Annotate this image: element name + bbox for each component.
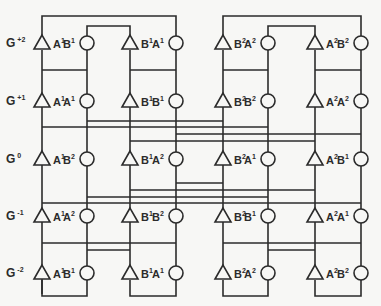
kin-label: B2 (63, 153, 75, 166)
kinship-diagram: G+2A1B1B1A1B2A2A2B2G+1A1A1B1B1B2B2A2A2G0… (0, 0, 381, 306)
male-triangle-icon (307, 151, 323, 165)
female-circle-icon (169, 94, 183, 108)
female-circle-icon (354, 94, 368, 108)
kin-label: A1 (244, 153, 256, 166)
female-circle-icon (169, 209, 183, 223)
generation-superscript: +2 (17, 36, 25, 43)
female-circle-icon (261, 94, 275, 108)
kin-label-superscript: 2 (71, 153, 75, 160)
kin-label-superscript: 1 (160, 267, 164, 274)
male-triangle-icon (307, 265, 323, 279)
generation-label: G-2 (6, 266, 24, 280)
kin-label-superscript: 1 (160, 95, 164, 102)
male-triangle-icon (307, 35, 323, 49)
kin-label: B1 (63, 37, 75, 50)
male-triangle-icon (34, 35, 50, 49)
female-circle-icon (80, 36, 94, 50)
kin-label-superscript: 1 (160, 37, 164, 44)
generation-label: G+1 (6, 94, 25, 108)
kin-label-superscript: 2 (252, 37, 256, 44)
kin-label: A2 (63, 210, 75, 223)
female-circle-icon (261, 266, 275, 280)
female-circle-icon (354, 36, 368, 50)
female-circle-icon (261, 209, 275, 223)
kin-label: B1 (63, 267, 75, 280)
kin-label: A1 (152, 37, 164, 50)
kin-label: A1 (63, 95, 75, 108)
generation-superscript: -2 (17, 266, 23, 273)
kin-label: A1 (337, 210, 349, 223)
female-circle-icon (169, 266, 183, 280)
generation-label: G-1 (6, 209, 24, 223)
male-triangle-icon (122, 35, 138, 49)
kin-label: A2 (244, 37, 256, 50)
kin-label: A2 (244, 267, 256, 280)
kin-label: B2 (244, 95, 256, 108)
generation-superscript: -1 (17, 209, 23, 216)
male-triangle-icon (215, 265, 231, 279)
kin-label: B2 (152, 210, 164, 223)
male-triangle-icon (215, 93, 231, 107)
male-triangle-icon (307, 93, 323, 107)
kin-label-superscript: 2 (345, 267, 349, 274)
kin-label: B2 (337, 267, 349, 280)
kin-label-superscript: 2 (345, 37, 349, 44)
kin-label: A2 (152, 153, 164, 166)
kin-label-superscript: 1 (252, 210, 256, 217)
female-circle-icon (80, 94, 94, 108)
kin-label-superscript: 1 (252, 153, 256, 160)
kin-label-superscript: 1 (345, 210, 349, 217)
female-circle-icon (261, 36, 275, 50)
male-triangle-icon (34, 151, 50, 165)
kin-label: A2 (337, 95, 349, 108)
generation-label: G+2 (6, 36, 25, 50)
female-circle-icon (80, 152, 94, 166)
male-triangle-icon (122, 151, 138, 165)
kin-label-superscript: 2 (71, 210, 75, 217)
male-triangle-icon (122, 265, 138, 279)
female-circle-icon (80, 266, 94, 280)
kin-label-superscript: 1 (345, 153, 349, 160)
kin-label: A1 (152, 267, 164, 280)
kin-label-superscript: 1 (71, 37, 75, 44)
female-circle-icon (169, 152, 183, 166)
male-triangle-icon (34, 265, 50, 279)
male-triangle-icon (307, 208, 323, 222)
kin-label: B2 (337, 37, 349, 50)
kin-label: B1 (244, 210, 256, 223)
female-circle-icon (354, 266, 368, 280)
female-circle-icon (261, 152, 275, 166)
female-circle-icon (169, 36, 183, 50)
female-circle-icon (80, 209, 94, 223)
kin-label-superscript: 2 (160, 210, 164, 217)
male-triangle-icon (122, 208, 138, 222)
male-triangle-icon (122, 93, 138, 107)
kin-label-superscript: 2 (252, 95, 256, 102)
generation-label: G0 (6, 152, 21, 166)
generation-superscript: 0 (17, 152, 21, 159)
male-triangle-icon (34, 93, 50, 107)
male-triangle-icon (34, 208, 50, 222)
male-triangle-icon (215, 151, 231, 165)
kin-label-superscript: 1 (71, 267, 75, 274)
female-circle-icon (354, 152, 368, 166)
kin-label-superscript: 1 (71, 95, 75, 102)
kin-label: B1 (337, 153, 349, 166)
kin-label-superscript: 2 (252, 267, 256, 274)
male-triangle-icon (215, 35, 231, 49)
male-triangle-icon (215, 208, 231, 222)
kin-label-superscript: 2 (160, 153, 164, 160)
kin-label: B1 (152, 95, 164, 108)
female-circle-icon (354, 209, 368, 223)
generation-superscript: +1 (17, 94, 25, 101)
kin-label-superscript: 2 (345, 95, 349, 102)
